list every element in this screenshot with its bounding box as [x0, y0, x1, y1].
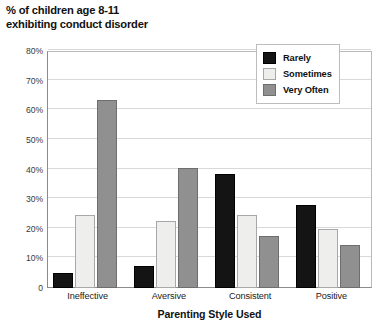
y-tick-label-0: 0 — [0, 283, 43, 293]
chart-title-line-2: exhibiting conduct disorder — [6, 18, 266, 32]
bar-aversive-very-often[interactable] — [178, 168, 198, 288]
bar-ineffective-very-often[interactable] — [97, 100, 117, 288]
legend-item-very-often[interactable]: Very Often — [263, 82, 332, 98]
chart-title-line-1: % of children age 8-11 — [6, 4, 266, 18]
y-tick-label-60: 60% — [0, 105, 43, 115]
bar-aversive-sometimes[interactable] — [156, 221, 176, 288]
y-tick-label-10: 10% — [0, 253, 43, 263]
legend-swatch-very-often-icon — [263, 84, 276, 96]
y-tick-label-80: 80% — [0, 46, 43, 56]
x-axis: IneffectiveAversiveConsistentPositive — [47, 291, 372, 307]
legend: RarelySometimesVery Often — [256, 44, 340, 104]
legend-label-rarely: Rarely — [283, 53, 311, 63]
bar-consistent-sometimes[interactable] — [237, 215, 257, 288]
y-tick-label-20: 20% — [0, 224, 43, 234]
y-tick-label-50: 50% — [0, 135, 43, 145]
bar-positive-sometimes[interactable] — [318, 229, 338, 288]
bar-aversive-rarely[interactable] — [134, 266, 154, 288]
bar-consistent-rarely[interactable] — [215, 174, 235, 288]
y-axis: 010%20%30%40%50%60%70%80% — [0, 51, 43, 288]
bar-chart: % of children age 8-11 exhibiting conduc… — [0, 0, 385, 333]
legend-label-very-often: Very Often — [283, 85, 329, 95]
chart-title: % of children age 8-11 exhibiting conduc… — [6, 4, 266, 31]
x-axis-title: Parenting Style Used — [47, 308, 372, 320]
y-tick-label-40: 40% — [0, 165, 43, 175]
bar-positive-rarely[interactable] — [296, 205, 316, 288]
y-tick-label-70: 70% — [0, 76, 43, 86]
bar-positive-very-often[interactable] — [340, 245, 360, 288]
bar-ineffective-rarely[interactable] — [53, 273, 73, 288]
x-tick-label-consistent: Consistent — [210, 291, 291, 301]
bar-group-ineffective — [53, 51, 117, 288]
legend-label-sometimes: Sometimes — [283, 69, 332, 79]
bar-consistent-very-often[interactable] — [259, 236, 279, 288]
x-tick-label-aversive: Aversive — [128, 291, 209, 301]
bar-group-aversive — [134, 51, 198, 288]
x-tick-label-ineffective: Ineffective — [47, 291, 128, 301]
y-tick-label-30: 30% — [0, 194, 43, 204]
x-tick-label-positive: Positive — [291, 291, 372, 301]
legend-item-rarely[interactable]: Rarely — [263, 50, 332, 66]
legend-swatch-sometimes-icon — [263, 68, 276, 80]
bar-ineffective-sometimes[interactable] — [75, 215, 95, 288]
legend-item-sometimes[interactable]: Sometimes — [263, 66, 332, 82]
legend-swatch-rarely-icon — [263, 52, 276, 64]
